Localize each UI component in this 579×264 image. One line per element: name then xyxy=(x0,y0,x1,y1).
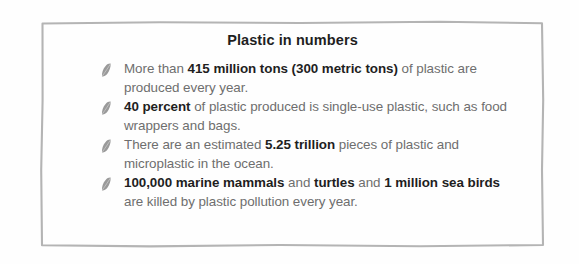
fact-text: There are an estimated 5.25 trillion pie… xyxy=(124,137,459,171)
fact-text: 40 percent of plastic produced is single… xyxy=(124,99,507,133)
plastic-facts-card: Plastic in numbers More than 415 million… xyxy=(0,0,579,264)
leaf-icon xyxy=(101,101,113,115)
leaf-icon xyxy=(101,139,113,153)
list-item: 40 percent of plastic produced is single… xyxy=(101,97,521,135)
page-title: Plastic in numbers xyxy=(40,32,545,48)
fact-list: More than 415 million tons (300 metric t… xyxy=(101,59,521,211)
list-item: There are an estimated 5.25 trillion pie… xyxy=(101,135,521,173)
list-item: More than 415 million tons (300 metric t… xyxy=(101,59,521,97)
list-item: 100,000 marine mammals and turtles and 1… xyxy=(101,173,521,211)
fact-text: 100,000 marine mammals and turtles and 1… xyxy=(124,175,500,209)
fact-text: More than 415 million tons (300 metric t… xyxy=(124,61,477,95)
leaf-icon xyxy=(101,177,113,191)
leaf-icon xyxy=(101,63,113,77)
